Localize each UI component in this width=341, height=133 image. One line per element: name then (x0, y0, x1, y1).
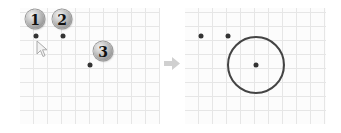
arrow-right-icon (164, 57, 180, 70)
mouse-pointer-icon (36, 40, 48, 58)
step-1-badge: 1 (26, 10, 45, 29)
step-2-label: 2 (57, 12, 67, 26)
drawn-circle (226, 35, 286, 95)
result-point-1-dot (199, 34, 204, 39)
point-2-dot (61, 34, 66, 39)
step-3-label: 3 (98, 44, 108, 58)
point-1-dot (34, 34, 39, 39)
step-1-label: 1 (30, 12, 40, 26)
step-3-badge: 3 (94, 42, 113, 61)
point-3-dot (88, 63, 93, 68)
step-2-badge: 2 (53, 10, 72, 29)
